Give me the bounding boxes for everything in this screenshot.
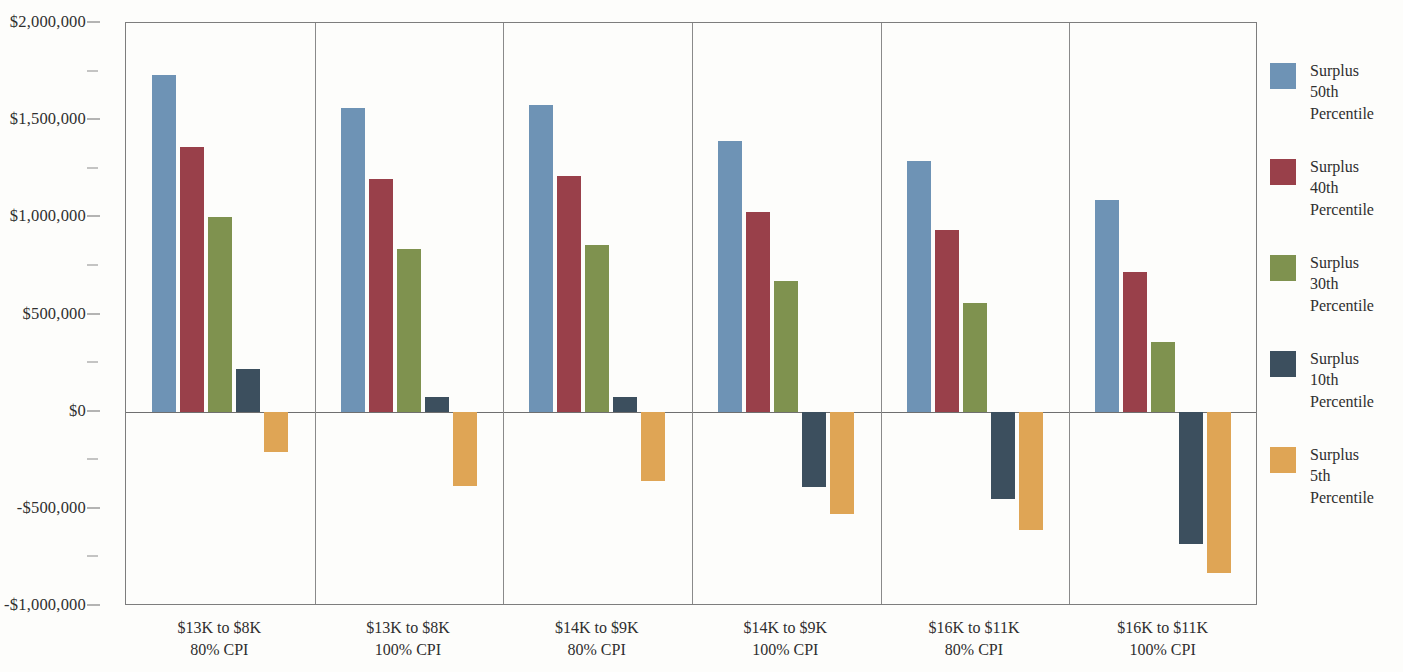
y-axis-major-tick — [87, 410, 100, 411]
y-axis-minor-tick — [87, 70, 98, 71]
bar — [963, 303, 987, 412]
bar-group — [1069, 23, 1258, 604]
legend-item[interactable]: Surplus50thPercentile — [1270, 60, 1374, 124]
y-axis-minor-tick — [87, 264, 98, 265]
x-axis-category-label: $13K to $8K100% CPI — [314, 617, 503, 661]
y-axis-tick-label: $2,000,000 — [10, 12, 86, 32]
legend-label-line: Percentile — [1310, 199, 1374, 220]
bar — [774, 281, 798, 411]
bar — [236, 369, 260, 412]
bar-group — [315, 23, 504, 604]
category-label-line: 100% CPI — [314, 639, 503, 661]
y-axis-minor-tick — [87, 362, 98, 363]
bar-group — [881, 23, 1070, 604]
legend-color-swatch — [1270, 159, 1296, 185]
category-label-line: $13K to $8K — [314, 617, 503, 639]
y-axis-tick-label: $0 — [69, 401, 86, 421]
legend-label-line: Surplus — [1310, 60, 1374, 81]
legend-label-line: Surplus — [1310, 156, 1374, 177]
y-axis-major-tick — [87, 507, 100, 508]
y-axis-tick-label: $500,000 — [23, 304, 86, 324]
y-axis-tick-label: -$500,000 — [17, 498, 86, 518]
bar — [453, 412, 477, 487]
bar — [1179, 412, 1203, 544]
legend-label-line: 30th — [1310, 273, 1374, 294]
bar — [264, 412, 288, 453]
bar — [746, 212, 770, 412]
bar — [397, 249, 421, 411]
legend-label-line: Surplus — [1310, 444, 1374, 465]
bar — [1207, 412, 1231, 573]
legend-label-line: 10th — [1310, 369, 1374, 390]
legend-color-swatch — [1270, 447, 1296, 473]
bar — [1095, 200, 1119, 412]
x-axis-category-label: $14K to $9K100% CPI — [691, 617, 880, 661]
y-axis-major-tick — [87, 605, 100, 606]
legend-label-line: Percentile — [1310, 487, 1374, 508]
bar — [529, 105, 553, 412]
bar — [935, 230, 959, 412]
legend-label-line: 40th — [1310, 177, 1374, 198]
bar-group — [692, 23, 881, 604]
legend-item[interactable]: Surplus10thPercentile — [1270, 348, 1374, 412]
legend-color-swatch — [1270, 255, 1296, 281]
plot-area — [125, 22, 1257, 605]
bar — [180, 147, 204, 411]
legend-label: Surplus30thPercentile — [1310, 252, 1374, 316]
x-axis-category-label: $16K to $11K100% CPI — [1068, 617, 1257, 661]
y-axis-tick-label: $1,500,000 — [10, 109, 86, 129]
category-label-line: 80% CPI — [125, 639, 314, 661]
bar-chart: $2,000,000$1,500,000$1,000,000$500,000$0… — [0, 0, 1403, 672]
legend-label: Surplus50thPercentile — [1310, 60, 1374, 124]
legend-label-line: Percentile — [1310, 391, 1374, 412]
legend-item[interactable]: Surplus40thPercentile — [1270, 156, 1374, 220]
legend-label-line: Surplus — [1310, 348, 1374, 369]
x-axis-category-label: $16K to $11K80% CPI — [880, 617, 1069, 661]
y-axis-tick-label: $1,000,000 — [10, 206, 86, 226]
bar — [557, 176, 581, 412]
legend-color-swatch — [1270, 63, 1296, 89]
bar — [718, 141, 742, 412]
bar — [1019, 412, 1043, 531]
bar — [907, 161, 931, 412]
bar — [152, 75, 176, 411]
bar — [613, 397, 637, 412]
y-axis-major-tick — [87, 22, 100, 23]
category-label-line: $14K to $9K — [502, 617, 691, 639]
bar-group — [126, 23, 315, 604]
legend-label: Surplus5thPercentile — [1310, 444, 1374, 508]
y-axis-minor-tick — [87, 167, 98, 168]
category-label-line: 80% CPI — [502, 639, 691, 661]
legend-item[interactable]: Surplus5thPercentile — [1270, 444, 1374, 508]
y-axis-major-tick — [87, 313, 100, 314]
legend-label-line: Percentile — [1310, 295, 1374, 316]
legend-item[interactable]: Surplus30thPercentile — [1270, 252, 1374, 316]
x-axis-category-label: $13K to $8K80% CPI — [125, 617, 314, 661]
y-axis-major-tick — [87, 119, 100, 120]
legend-label-line: 50th — [1310, 81, 1374, 102]
bar — [830, 412, 854, 514]
category-label-line: $13K to $8K — [125, 617, 314, 639]
category-label-line: 100% CPI — [1068, 639, 1257, 661]
bar-group — [503, 23, 692, 604]
bar — [369, 179, 393, 411]
y-axis-tick-label: -$1,000,000 — [4, 595, 86, 615]
x-axis-category-label: $14K to $9K80% CPI — [502, 617, 691, 661]
bar — [425, 397, 449, 412]
category-label-line: 100% CPI — [691, 639, 880, 661]
y-axis-major-tick — [87, 216, 100, 217]
legend-label-line: 5th — [1310, 465, 1374, 486]
category-label-line: $16K to $11K — [880, 617, 1069, 639]
bar — [1123, 272, 1147, 412]
bar — [208, 217, 232, 411]
category-label-line: $14K to $9K — [691, 617, 880, 639]
legend-label: Surplus10thPercentile — [1310, 348, 1374, 412]
bar — [802, 412, 826, 488]
bar — [585, 245, 609, 412]
y-axis-minor-tick — [87, 556, 98, 557]
legend-color-swatch — [1270, 351, 1296, 377]
legend-label: Surplus40thPercentile — [1310, 156, 1374, 220]
y-axis: $2,000,000$1,500,000$1,000,000$500,000$0… — [0, 0, 112, 672]
y-axis-minor-tick — [87, 459, 98, 460]
bar — [641, 412, 665, 481]
